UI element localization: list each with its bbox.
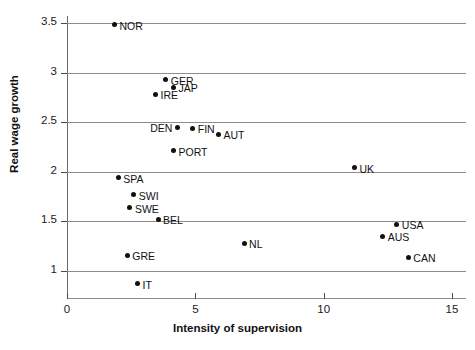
x-axis-title: Intensity of supervision bbox=[0, 322, 475, 334]
y-tick-mark bbox=[61, 73, 67, 74]
data-point bbox=[242, 241, 247, 246]
data-point bbox=[156, 217, 161, 222]
data-point-label: SPA bbox=[123, 174, 143, 185]
data-point-label: IT bbox=[143, 280, 152, 291]
x-tick-label: 0 bbox=[47, 303, 87, 315]
gridline bbox=[67, 271, 466, 272]
y-tick-mark bbox=[61, 221, 67, 222]
data-point-label: BEL bbox=[163, 215, 183, 226]
data-point bbox=[171, 148, 176, 153]
data-point bbox=[190, 126, 195, 131]
x-tick-mark bbox=[195, 293, 196, 299]
data-point bbox=[135, 281, 140, 286]
data-point bbox=[380, 234, 385, 239]
scatter-chart: NORGERJAPIREDENFINAUTPORTSPASWISWEBELUKU… bbox=[0, 0, 475, 350]
plot-area: NORGERJAPIREDENFINAUTPORTSPASWISWEBELUKU… bbox=[67, 10, 466, 298]
y-tick-mark bbox=[61, 271, 67, 272]
data-point bbox=[216, 132, 221, 137]
data-point-label: JAP bbox=[179, 83, 198, 94]
data-point-label: SWI bbox=[139, 191, 159, 202]
data-point bbox=[131, 192, 136, 197]
data-point-label: NL bbox=[249, 239, 262, 250]
data-point bbox=[116, 175, 121, 180]
data-point-label: NOR bbox=[119, 21, 142, 32]
data-point-label: PORT bbox=[179, 147, 208, 158]
gridline bbox=[67, 73, 466, 74]
data-point-label: USA bbox=[402, 220, 424, 231]
data-point bbox=[125, 253, 130, 258]
y-tick-label: 3.5 bbox=[0, 15, 57, 27]
x-tick-mark bbox=[324, 293, 325, 299]
data-point bbox=[153, 92, 158, 97]
x-tick-label: 10 bbox=[304, 303, 344, 315]
y-tick-label: 1 bbox=[0, 263, 57, 275]
x-tick-mark bbox=[452, 293, 453, 299]
y-tick-label: 1.5 bbox=[0, 213, 57, 225]
data-point-label: AUT bbox=[223, 130, 244, 141]
data-point-label: IRE bbox=[161, 90, 179, 101]
data-point-label: CAN bbox=[413, 253, 435, 264]
data-point bbox=[127, 205, 132, 210]
data-point-label: AUS bbox=[388, 232, 410, 243]
data-point bbox=[352, 165, 357, 170]
data-point bbox=[394, 222, 399, 227]
data-point bbox=[406, 255, 411, 260]
gridline bbox=[67, 122, 466, 123]
y-tick-mark bbox=[61, 122, 67, 123]
data-point-label: UK bbox=[359, 164, 374, 175]
data-point bbox=[112, 22, 117, 27]
data-point bbox=[163, 77, 168, 82]
y-axis-title: Real wage growth bbox=[8, 64, 20, 184]
y-tick-mark bbox=[61, 172, 67, 173]
x-tick-mark bbox=[67, 293, 68, 299]
y-tick-mark bbox=[61, 23, 67, 24]
x-tick-label: 5 bbox=[175, 303, 215, 315]
data-point-label: GRE bbox=[132, 251, 155, 262]
data-point-label: SWE bbox=[135, 204, 159, 215]
x-tick-label: 15 bbox=[432, 303, 472, 315]
data-point-label: FIN bbox=[198, 124, 215, 135]
x-axis-line bbox=[67, 298, 466, 299]
data-point bbox=[175, 125, 180, 130]
data-point-label: DEN bbox=[150, 123, 172, 134]
